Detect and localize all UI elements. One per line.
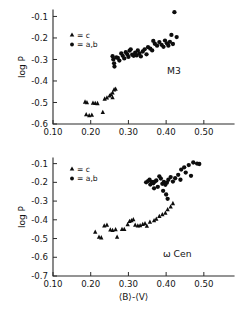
y-axis-title: log P	[17, 205, 27, 228]
data-point	[155, 44, 159, 48]
data-point	[169, 175, 173, 179]
y-tick-label: -0.5	[31, 234, 48, 244]
x-tick-label: 0.10	[43, 279, 62, 289]
data-point	[152, 186, 156, 190]
data-point	[161, 45, 165, 49]
data-point	[178, 178, 182, 182]
data-point	[148, 220, 152, 224]
axis-lines	[53, 10, 234, 124]
data-point	[139, 54, 143, 58]
data-point	[93, 230, 97, 234]
y-tick-label: -0.3	[31, 196, 48, 206]
triangle-marker-icon	[70, 32, 75, 36]
data-point	[182, 165, 186, 169]
y-tick-label: -0.4	[31, 76, 48, 86]
figure-container: -0.1-0.2-0.3-0.4-0.5-0.60.100.200.300.40…	[0, 0, 237, 310]
data-point	[151, 39, 155, 43]
data-point	[112, 64, 116, 68]
x-tick-label: 0.30	[119, 127, 138, 137]
data-point	[176, 173, 180, 177]
data-point	[197, 162, 201, 166]
data-point	[90, 112, 94, 116]
y-tick-label: -0.5	[31, 98, 48, 108]
series-ab	[110, 10, 178, 69]
y-tick-label: -0.1	[31, 159, 48, 169]
data-point	[150, 48, 154, 52]
data-point	[171, 201, 175, 205]
data-point	[159, 176, 163, 180]
y-tick-label: -0.2	[31, 177, 48, 187]
scatter-plot-omega-cen: -0.1-0.2-0.3-0.4-0.5-0.6-0.70.100.200.30…	[0, 152, 237, 310]
x-tick-label: 0.40	[157, 127, 176, 137]
data-point	[129, 47, 133, 51]
data-point	[164, 192, 168, 196]
x-tick-label: 0.20	[81, 279, 100, 289]
data-point	[172, 10, 176, 14]
data-point	[189, 174, 193, 178]
x-tick-label: 0.50	[194, 279, 213, 289]
data-point	[166, 44, 170, 48]
data-point	[161, 189, 165, 193]
panel-title-label: M3	[167, 65, 181, 76]
chart-legend: = c= a,b	[70, 31, 98, 50]
data-point	[169, 33, 173, 37]
data-point	[113, 227, 117, 231]
data-point	[144, 52, 148, 56]
data-point	[154, 178, 158, 182]
chart-panel-m3: -0.1-0.2-0.3-0.4-0.5-0.60.100.200.300.40…	[0, 0, 237, 152]
data-point	[122, 56, 126, 60]
data-point	[101, 110, 105, 114]
chart-panel-omega-cen: -0.1-0.2-0.3-0.4-0.5-0.6-0.70.100.200.30…	[0, 152, 237, 310]
x-tick-label: 0.10	[43, 127, 62, 137]
y-tick-label: -0.6	[31, 252, 48, 262]
data-point	[187, 163, 191, 167]
x-tick-label: 0.40	[157, 279, 176, 289]
data-point	[115, 235, 119, 239]
data-point	[191, 160, 195, 164]
scatter-plot-m3: -0.1-0.2-0.3-0.4-0.5-0.60.100.200.300.40…	[0, 0, 237, 152]
legend-label-c: = c	[77, 165, 90, 174]
series-c	[93, 201, 175, 240]
triangle-marker-icon	[70, 166, 75, 170]
x-tick-label: 0.30	[119, 279, 138, 289]
data-point	[126, 55, 130, 59]
data-point	[105, 223, 109, 227]
data-point	[84, 112, 88, 116]
series-ab	[144, 160, 201, 201]
chart-legend: = c= a,b	[70, 165, 98, 184]
data-point	[165, 197, 169, 201]
legend-label-c: = c	[77, 31, 90, 40]
panel-title-label: ω Cen	[163, 248, 192, 259]
data-point	[175, 35, 179, 39]
circle-marker-icon	[70, 177, 74, 181]
x-tick-label: 0.50	[194, 127, 213, 137]
legend-label-ab: = a,b	[77, 40, 98, 49]
x-axis-title: ⟨B⟩-⟨V⟩	[119, 292, 149, 302]
y-tick-label: -0.4	[31, 215, 48, 225]
circle-marker-icon	[70, 43, 74, 47]
data-point	[171, 42, 175, 46]
y-axis-title: log P	[17, 55, 27, 78]
data-point	[184, 170, 188, 174]
y-tick-label: -0.2	[31, 33, 48, 43]
y-tick-label: -0.1	[31, 12, 48, 22]
x-tick-label: 0.20	[81, 127, 100, 137]
y-tick-label: -0.3	[31, 55, 48, 65]
legend-label-ab: = a,b	[77, 174, 98, 183]
data-point	[117, 58, 121, 62]
series-c	[83, 86, 118, 117]
data-point	[156, 185, 160, 189]
data-point	[173, 176, 177, 180]
